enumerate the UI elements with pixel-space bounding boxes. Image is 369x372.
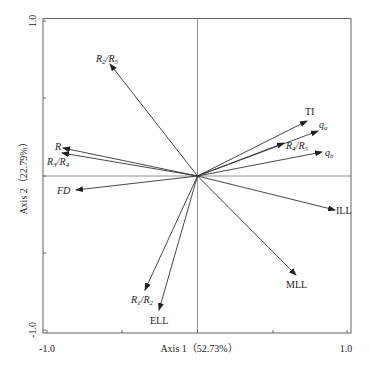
label-R2-R5: R2/R5: [95, 53, 119, 66]
vector-R1-R2: [145, 176, 198, 290]
label-FD: FD: [56, 185, 71, 196]
vector-qa: [198, 131, 319, 176]
y-axis-title: Axis 2（22.79%）: [18, 137, 29, 214]
label-ELL: ELL: [150, 315, 168, 326]
vector-ILL: [198, 176, 336, 210]
vector-qb: [198, 152, 323, 176]
vectors: [62, 64, 335, 310]
label-R: R: [54, 141, 61, 152]
label-R1-R2: R1/R2: [130, 294, 154, 307]
vector-MLL: [198, 176, 297, 275]
label-ILL: ILL: [336, 205, 352, 216]
vector-R3-R4: [62, 153, 198, 176]
x-axis-title: Axis 1（52.73%）: [160, 343, 237, 354]
label-qb: qb: [325, 147, 334, 160]
vector-R2-R5: [110, 64, 198, 176]
biplot-chart: -1.0 1.0 1.0 -1.0 Axis 1（52.73%） Axis 2（…: [0, 0, 369, 372]
y-tick-max: 1.0: [27, 15, 38, 28]
x-tick-min: -1.0: [39, 343, 55, 354]
x-tick-max: 1.0: [340, 343, 353, 354]
label-R4-R5: R4/R5: [285, 140, 309, 153]
label-qa: qa: [319, 119, 328, 132]
vector-ELL: [159, 176, 198, 310]
y-tick-min: -1.0: [27, 322, 38, 338]
vector-FD: [76, 176, 198, 190]
label-TI: TI: [305, 106, 314, 117]
label-MLL: MLL: [286, 279, 307, 290]
vector-R: [63, 148, 198, 176]
label-R3-R4: R3/R4: [46, 156, 70, 169]
